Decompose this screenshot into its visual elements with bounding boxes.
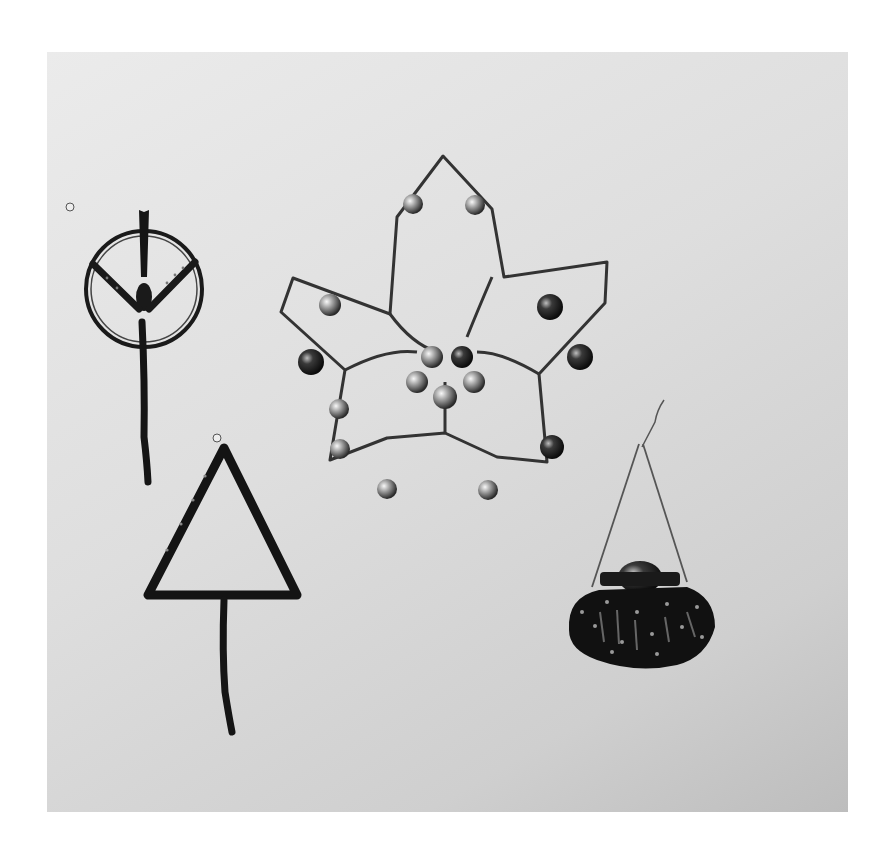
circle-ornament [66, 203, 202, 482]
ornaments-illustration [47, 52, 848, 812]
triangle-ornament [148, 434, 297, 732]
star-ornament [281, 156, 607, 500]
photograph: Black-and-white photograph of four beade… [47, 52, 848, 812]
fan-ornament [569, 400, 715, 669]
